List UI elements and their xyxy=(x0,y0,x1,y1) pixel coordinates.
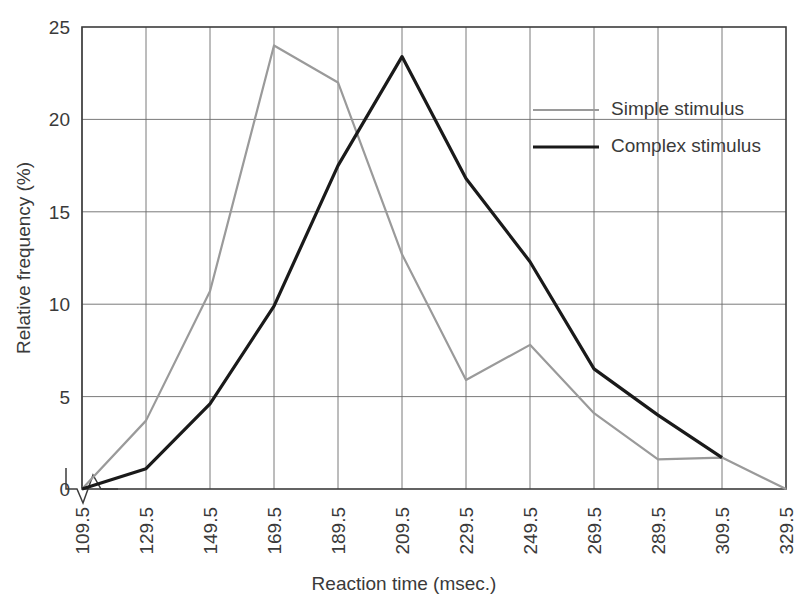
y-tick-label: 0 xyxy=(59,479,70,500)
x-tick-label: 149.5 xyxy=(200,507,221,555)
x-tick-label: 229.5 xyxy=(456,507,477,555)
x-tick-label: 249.5 xyxy=(520,507,541,555)
x-tick-label: 109.5 xyxy=(72,507,93,555)
x-axis-title: Reaction time (msec.) xyxy=(312,573,497,594)
x-tick-label: 289.5 xyxy=(648,507,669,555)
legend-label: Complex stimulus xyxy=(611,135,761,156)
x-tick-label: 129.5 xyxy=(136,507,157,555)
x-tick-label: 309.5 xyxy=(712,507,733,555)
chart-canvas: 0510152025 109.5129.5149.5169.5189.5209.… xyxy=(0,0,804,607)
x-tick-label: 269.5 xyxy=(584,507,605,555)
chart-figure: 0510152025 109.5129.5149.5169.5189.5209.… xyxy=(0,0,804,607)
y-tick-label: 5 xyxy=(59,387,70,408)
x-tick-label: 209.5 xyxy=(392,507,413,555)
y-tick-label: 20 xyxy=(49,109,70,130)
x-tick-label: 329.5 xyxy=(776,507,797,555)
y-tick-label: 15 xyxy=(49,202,70,223)
y-tick-label: 10 xyxy=(49,294,70,315)
x-tick-label: 189.5 xyxy=(328,507,349,555)
y-axis-title: Relative frequency (%) xyxy=(13,162,34,354)
y-tick-label: 25 xyxy=(49,17,70,38)
x-tick-label: 169.5 xyxy=(264,507,285,555)
legend-label: Simple stimulus xyxy=(611,98,744,119)
